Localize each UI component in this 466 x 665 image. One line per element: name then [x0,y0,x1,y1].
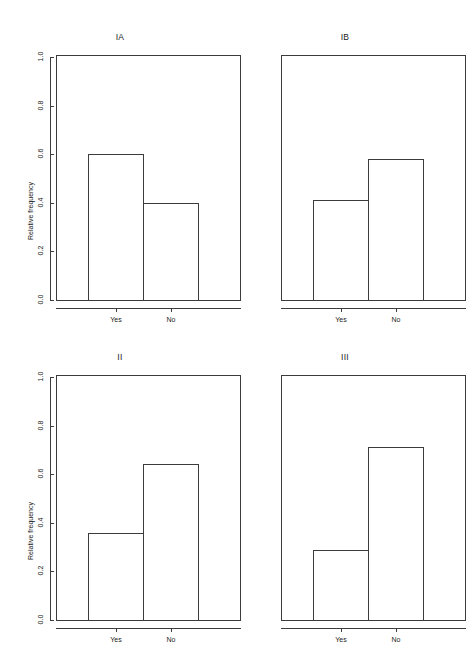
y-tick-label-IA-3: 0.6 [37,144,44,164]
panel-title-IA: IA [0,32,240,42]
x-axis-line-IA [56,308,241,309]
x-tick-label-III-no: No [376,636,416,643]
bar-II-yes [88,533,144,621]
y-tick-IA-4 [50,106,54,107]
y-tick-IA-2 [50,203,54,204]
y-axis-line-IA [50,57,51,300]
panel-title-IB: IB [225,32,465,42]
x-tick-II-no [171,628,172,632]
y-tick-label-II-1: 0.2 [37,561,44,581]
x-tick-IB-yes [341,308,342,312]
y-tick-label-II-0: 0.0 [37,610,44,630]
y-tick-label-II-3: 0.6 [37,464,44,484]
y-tick-label-II-5: 1.0 [37,367,44,387]
x-tick-label-III-yes: Yes [321,636,361,643]
panel-title-II: II [0,352,240,362]
bar-III-no [368,447,424,621]
bar-IB-no [368,159,424,301]
y-axis-title-II: Relative frequency [27,502,34,560]
y-tick-II-1 [50,571,54,572]
y-tick-label-II-4: 0.8 [37,416,44,436]
bar-IA-no [143,203,199,301]
y-axis-line-II [50,377,51,620]
bar-II-no [143,464,199,621]
x-tick-II-yes [116,628,117,632]
panel-IB: IB Yes No [225,0,465,340]
bar-IA-yes [88,154,144,301]
x-tick-IA-no [171,308,172,312]
x-tick-IB-no [396,308,397,312]
y-tick-II-4 [50,426,54,427]
y-tick-label-IA-5: 1.0 [37,47,44,67]
bar-IB-yes [313,200,369,301]
x-tick-III-yes [341,628,342,632]
panel-IA: IA Relative frequency 0.0 0.2 0.4 0.6 0.… [0,0,240,340]
x-axis-line-III [281,628,466,629]
y-tick-II-2 [50,523,54,524]
x-tick-label-II-no: No [151,636,191,643]
y-tick-II-5 [50,377,54,378]
y-axis-title-IA: Relative frequency [27,182,34,240]
y-tick-II-0 [50,620,54,621]
panel-II: II Relative frequency 0.0 0.2 0.4 0.6 0.… [0,320,240,665]
y-tick-IA-1 [50,251,54,252]
bar-III-yes [313,550,369,621]
x-tick-III-no [396,628,397,632]
panel-title-III: III [225,352,465,362]
y-tick-label-IA-2: 0.4 [37,193,44,213]
y-tick-label-IA-1: 0.2 [37,241,44,261]
x-axis-line-IB [281,308,466,309]
x-tick-label-II-yes: Yes [96,636,136,643]
y-tick-IA-0 [50,300,54,301]
y-tick-IA-5 [50,57,54,58]
y-tick-label-IA-0: 0.0 [37,290,44,310]
y-tick-label-II-2: 0.4 [37,513,44,533]
y-tick-label-IA-4: 0.8 [37,96,44,116]
x-tick-IA-yes [116,308,117,312]
y-tick-II-3 [50,474,54,475]
y-tick-IA-3 [50,154,54,155]
x-axis-line-II [56,628,241,629]
panel-III: III Yes No [225,320,465,665]
